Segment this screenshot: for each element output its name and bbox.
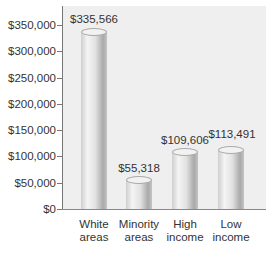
value-label: $335,566 (70, 13, 118, 25)
y-tick (57, 104, 62, 105)
x-category-label: Minorityareas (119, 218, 159, 244)
y-tick (57, 156, 62, 157)
value-label: $113,491 (208, 128, 255, 140)
y-tick-label: $100,000 (8, 150, 56, 162)
y-tick-label: $0 (43, 203, 56, 215)
bar-cap (172, 148, 198, 156)
y-tick (57, 209, 62, 210)
bar-low-income (218, 150, 244, 209)
y-tick-label: $250,000 (8, 72, 56, 84)
value-label: $55,318 (118, 162, 160, 174)
y-tick-label: $300,000 (8, 45, 56, 57)
value-label: $109,606 (161, 134, 209, 146)
y-tick-label: $200,000 (8, 98, 56, 110)
bar-cap (81, 28, 107, 36)
x-category-label: Whiteareas (79, 218, 108, 244)
y-tick-label: $150,000 (8, 124, 56, 136)
bar-white-areas (81, 32, 107, 209)
bar-cap (218, 146, 244, 154)
bar-cap (126, 176, 152, 184)
x-axis (62, 209, 266, 210)
bar-minority-areas (126, 180, 152, 209)
y-tick (57, 25, 62, 26)
x-category-label: Lowincome (212, 218, 249, 244)
y-tick (57, 130, 62, 131)
y-tick-label: $350,000 (8, 19, 56, 31)
y-tick-label: $50,000 (14, 177, 56, 189)
y-tick (57, 183, 62, 184)
y-tick (57, 78, 62, 79)
bar-high-income (172, 152, 198, 209)
x-category-label: Highincome (166, 218, 203, 244)
y-tick (57, 51, 62, 52)
y-axis (62, 6, 63, 210)
